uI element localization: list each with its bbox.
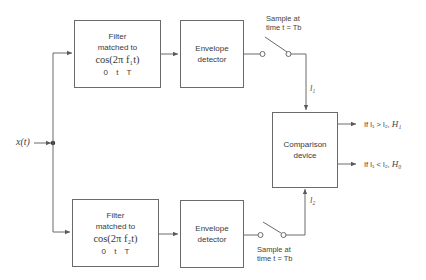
upper-envelope-detector: Envelope detector (180, 20, 244, 88)
decision-h0-hypothesis: H₀ (392, 159, 402, 169)
lower-filter-subtitle: matched to (96, 221, 136, 232)
lower-sampler-line1: Sample at (257, 245, 293, 254)
lower-sampler-line2: time t = Tb (257, 254, 293, 263)
lower-detector-label-1: Envelope (195, 223, 228, 234)
upper-switch-blade (265, 37, 287, 52)
lower-filter-title: Filter (107, 210, 125, 221)
decision-h1-condition: If l₁ > l₂, (364, 120, 390, 129)
comparison-label-1: Comparison (283, 139, 326, 150)
upper-sampler-label: Sample at time t = Tb (266, 14, 302, 32)
upper-matched-filter: Filter matched to cos(2π f₁t) 0 t T (74, 20, 161, 88)
upper-detector-label-2: detector (198, 54, 227, 65)
input-label: x(t) (16, 137, 30, 146)
lower-switch-blade (263, 222, 281, 233)
lower-sampler-label: Sample at time t = Tb (257, 245, 293, 263)
decision-h1: If l₁ > l₂, H₁ (364, 119, 401, 129)
decision-h1-hypothesis: H₁ (392, 119, 402, 129)
upper-detector-label-1: Envelope (195, 43, 228, 54)
upper-filter-range: 0 t T (104, 67, 132, 78)
lower-filter-formula: cos(2π f₂t) (93, 232, 137, 245)
upper-signal-label: l₁ (310, 84, 315, 93)
upper-sampler-line1: Sample at (266, 14, 302, 23)
upper-filter-subtitle: matched to (98, 42, 138, 53)
upper-filter-formula: cos(2π f₁t) (95, 53, 139, 66)
lower-detector-label-2: detector (198, 234, 227, 245)
lower-envelope-detector: Envelope detector (180, 200, 244, 268)
comparison-label-2: device (293, 150, 316, 161)
lower-filter-range: 0 t T (102, 246, 130, 257)
lower-signal-label: l₂ (310, 196, 315, 205)
decision-h0-condition: If l₁ < l₂, (364, 160, 390, 169)
comparison-device: Comparison device (272, 112, 338, 188)
upper-sampler-line2: time t = Tb (266, 23, 302, 32)
lower-matched-filter: Filter matched to cos(2π f₂t) 0 t T (72, 199, 159, 267)
decision-h0: If l₁ < l₂, H₀ (364, 159, 401, 169)
upper-filter-title: Filter (109, 31, 127, 42)
